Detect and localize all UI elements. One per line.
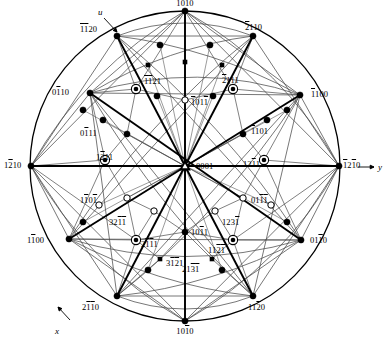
pole-label-p21b3b1: 2131: [182, 265, 199, 274]
pole-pb1100: [297, 92, 303, 98]
pole-pb12b10: [336, 163, 342, 169]
pole-label-pb1010: 1010: [176, 0, 193, 8]
pole-label-pb2111: 2111: [222, 76, 239, 85]
pole-p12b10: [28, 163, 34, 169]
pole-ring-core: [231, 238, 236, 243]
pole-node: [154, 93, 160, 99]
pole-label-p2bb110: 2110: [82, 303, 99, 312]
pole-node: [284, 219, 290, 225]
pole-p0b111: [124, 131, 130, 137]
pole-label-pb101b1: 1011: [191, 98, 208, 107]
pole-node: [80, 219, 86, 225]
pole-pb101b1: [182, 97, 188, 103]
y-axis-label-arrow-head: [370, 165, 374, 169]
pole-label-p0001: 0001: [196, 162, 213, 171]
pole-node: [100, 117, 106, 123]
pole-label-pb2110: 2110: [245, 23, 262, 32]
pole-p3b1b21: [158, 257, 163, 262]
pole-p01bb11: [240, 195, 246, 201]
pole-node: [146, 63, 151, 68]
pole-label-p32b1b1: 3211: [109, 218, 126, 227]
pole-label-p12b10: 1210: [4, 161, 21, 170]
pole-p01b10: [298, 237, 304, 243]
pole-label-p0b111: 0111: [80, 129, 97, 138]
pole-node: [207, 42, 213, 48]
pole-node: [284, 107, 290, 113]
pole-label-p01b10: 0110: [310, 236, 327, 245]
pole-label-pbb1121: 1121: [144, 77, 161, 86]
pole-label-p12b11: 1211: [243, 160, 260, 169]
pole-label-p01bb11: 0111: [251, 196, 268, 205]
pole-p0b110: [87, 90, 93, 96]
pole-label-p1b211: 1211: [96, 153, 113, 162]
pole-label-pbb1120: 1120: [80, 25, 97, 34]
pole-pb1101: [240, 131, 246, 137]
pole-label-p101b1: 1011: [191, 228, 208, 237]
pole-ring-core: [134, 238, 139, 243]
pole-label-p11b20: 1120: [248, 303, 265, 312]
pole-p123b1: [212, 208, 218, 214]
pole-label-pb12b10: 1210: [343, 161, 360, 170]
pole-ring-core: [262, 158, 267, 163]
axis-arrows: [58, 18, 374, 320]
pole-p2bb110: [114, 293, 120, 299]
pole-node: [264, 117, 270, 123]
pole-label-p1010b: 1010: [176, 327, 193, 336]
pole-p21b3b1: [210, 257, 215, 262]
pole-node: [145, 267, 151, 273]
pole-label-p11b2b1: 1121: [208, 246, 225, 255]
pole-p1010b: [182, 318, 188, 324]
x-axis-label: x: [55, 327, 59, 336]
pole-pb1010: [182, 8, 188, 14]
pole-node: [220, 63, 225, 68]
pole-label-pb1100: 1100: [311, 90, 328, 99]
stereographic-projection-figure: 0001101010100110011011001100121012101120…: [0, 0, 391, 341]
pole-label-pb1101: 1101: [251, 127, 268, 136]
pole-node: [210, 93, 216, 99]
pole-node: [157, 42, 163, 48]
pole-node: [183, 60, 188, 65]
pole-label-p2b1b11: 2111: [141, 240, 158, 249]
pole-p1b100: [66, 236, 72, 242]
pole-ring-core: [231, 87, 236, 92]
pole-node: [80, 107, 86, 113]
pole-p1b10b1: [124, 195, 130, 201]
pole-p11b20: [250, 293, 256, 299]
pole-pbb1120: [114, 33, 120, 39]
pole-label-p123b1: 1231: [222, 218, 239, 227]
pole-pb2110: [250, 33, 256, 39]
pole-node: [268, 202, 274, 208]
pole-p32b1b1: [151, 208, 157, 214]
pole-label-p1b100: 1100: [27, 236, 44, 245]
pole-ring-core: [134, 87, 139, 92]
pole-label-p0b110: 0110: [52, 88, 69, 97]
y-axis-label: y: [378, 163, 382, 172]
u-axis-label: u: [98, 8, 103, 17]
pole-label-p3b1b21: 3121: [166, 259, 183, 268]
pole-label-p1b10b1: 1101: [80, 196, 97, 205]
pole-p101b1: [182, 229, 188, 235]
pole-node: [219, 267, 225, 273]
